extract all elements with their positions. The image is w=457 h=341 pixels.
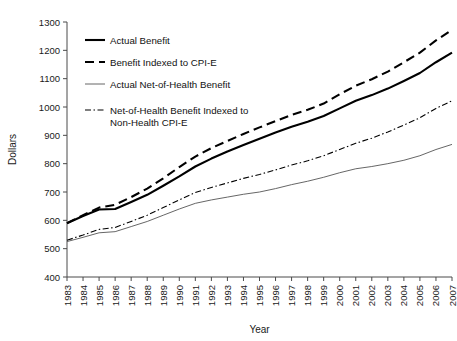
legend-label-3: Net-of-Health Benefit Indexed to	[110, 105, 248, 116]
x-tick-label: 2002	[366, 285, 377, 306]
x-tick-label: 1996	[270, 285, 281, 306]
y-tick-label: 700	[44, 187, 60, 198]
x-tick-label: 1985	[94, 285, 105, 306]
x-tick-label: 1999	[318, 285, 329, 306]
x-tick-label: 1987	[126, 285, 137, 306]
y-axis-title: Dollars	[7, 134, 18, 165]
x-tick-label: 1986	[110, 285, 121, 306]
x-tick-label: 1991	[190, 285, 201, 306]
x-tick-label: 2005	[414, 285, 425, 306]
x-tick-label: 1983	[62, 285, 73, 306]
x-tick-label: 1992	[206, 285, 217, 306]
legend-label-3-line2: Non-Health CPI-E	[110, 117, 188, 128]
x-tick-label: 1993	[222, 285, 233, 306]
x-tick-label: 2000	[334, 285, 345, 306]
x-tick-label: 2006	[430, 285, 441, 306]
legend-label-0: Actual Benefit	[110, 35, 170, 46]
y-tick-label: 1000	[39, 102, 60, 113]
y-tick-label: 800	[44, 158, 60, 169]
y-tick-label: 900	[44, 130, 60, 141]
x-tick-label: 1989	[158, 285, 169, 306]
legend-label-1: Benefit Indexed to CPI-E	[110, 57, 217, 68]
legend-label-2: Actual Net-of-Health Benefit	[110, 79, 230, 90]
x-tick-label: 1998	[302, 285, 313, 306]
chart-container: 4005006007008009001000110012001300Dollar…	[0, 0, 457, 341]
x-tick-label: 2001	[350, 285, 361, 306]
x-tick-label: 1984	[78, 285, 89, 306]
x-tick-label: 1994	[238, 285, 249, 306]
line-chart: 4005006007008009001000110012001300Dollar…	[0, 0, 457, 341]
x-tick-label: 1995	[254, 285, 265, 306]
series-line-2	[67, 144, 452, 241]
x-tick-label: 1988	[142, 285, 153, 306]
y-tick-label: 1200	[39, 45, 60, 56]
x-tick-label: 1997	[286, 285, 297, 306]
x-tick-label: 2004	[398, 285, 409, 306]
x-tick-label: 2003	[382, 285, 393, 306]
x-tick-label: 1990	[174, 285, 185, 306]
x-axis-title: Year	[249, 324, 270, 335]
y-tick-label: 1100	[40, 73, 60, 84]
x-tick-label: 2007	[447, 285, 457, 306]
y-tick-label: 600	[44, 215, 60, 226]
y-tick-label: 500	[44, 243, 60, 254]
y-tick-label: 400	[44, 272, 60, 283]
y-tick-label: 1300	[39, 17, 60, 28]
